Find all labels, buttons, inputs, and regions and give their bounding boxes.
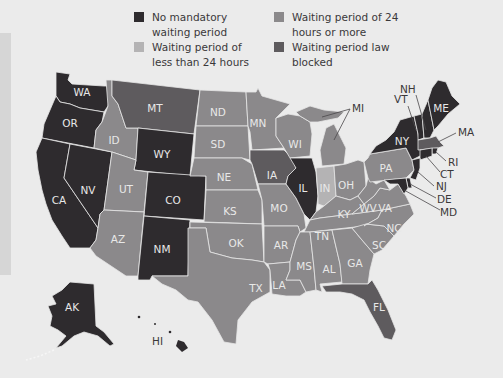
label-OR: OR	[62, 117, 78, 129]
label-WI: WI	[288, 138, 301, 150]
label-UT: UT	[119, 183, 134, 195]
leader-line	[426, 156, 440, 172]
label-KS: KS	[223, 205, 237, 217]
label-MA: MA	[458, 126, 475, 138]
state-AK	[48, 282, 114, 348]
label-FL: FL	[373, 301, 385, 313]
label-IN: IN	[320, 182, 331, 194]
label-RI: RI	[448, 156, 458, 168]
label-OK: OK	[228, 237, 244, 249]
label-AL: AL	[322, 263, 335, 275]
label-VA: VA	[378, 202, 393, 214]
label-NC: NC	[386, 222, 401, 234]
label-MD: MD	[440, 206, 457, 218]
state-HI-island	[138, 316, 141, 319]
label-WV: WV	[359, 202, 377, 214]
state-MI	[320, 124, 346, 166]
label-NV: NV	[80, 184, 96, 196]
leader-line	[418, 172, 434, 186]
label-DE: DE	[437, 193, 452, 205]
label-ND: ND	[210, 106, 226, 118]
label-MO: MO	[270, 202, 287, 214]
label-MI: MI	[352, 102, 364, 114]
state-HI-island	[154, 323, 156, 325]
label-NE: NE	[217, 171, 232, 183]
label-GA: GA	[347, 257, 363, 269]
label-OH: OH	[338, 179, 354, 191]
label-SC: SC	[372, 239, 386, 251]
label-KY: KY	[338, 208, 352, 220]
leader-line	[436, 152, 446, 161]
state-CT	[420, 148, 432, 160]
label-TN: TN	[314, 230, 329, 242]
state-HI-island	[169, 331, 172, 334]
label-WY: WY	[154, 148, 171, 160]
label-LA: LA	[272, 279, 286, 291]
leader-line	[438, 133, 456, 142]
label-ME: ME	[433, 102, 449, 114]
label-HI: HI	[152, 335, 163, 347]
label-PA: PA	[380, 162, 394, 174]
label-IL: IL	[299, 182, 308, 194]
label-ID: ID	[108, 134, 119, 146]
state-HI	[176, 340, 188, 352]
label-NM: NM	[154, 243, 171, 255]
label-AK: AK	[65, 301, 80, 313]
label-AZ: AZ	[111, 233, 125, 245]
label-NJ: NJ	[436, 180, 447, 192]
label-NY: NY	[395, 135, 410, 147]
label-MT: MT	[147, 102, 163, 114]
alaska-islands-dotted	[26, 350, 54, 360]
label-AR: AR	[274, 239, 288, 251]
label-IA: IA	[267, 169, 278, 181]
label-TX: TX	[248, 282, 263, 294]
label-CA: CA	[52, 194, 67, 206]
us-map: WA OR CA NV ID MT WY UT CO AZ NM ND SD N…	[0, 0, 503, 378]
label-SD: SD	[211, 138, 226, 150]
label-MS: MS	[296, 260, 312, 272]
label-WA: WA	[74, 86, 92, 98]
label-CT: CT	[440, 168, 454, 180]
label-VT: VT	[394, 93, 408, 105]
label-CO: CO	[165, 194, 181, 206]
label-MN: MN	[250, 117, 267, 129]
